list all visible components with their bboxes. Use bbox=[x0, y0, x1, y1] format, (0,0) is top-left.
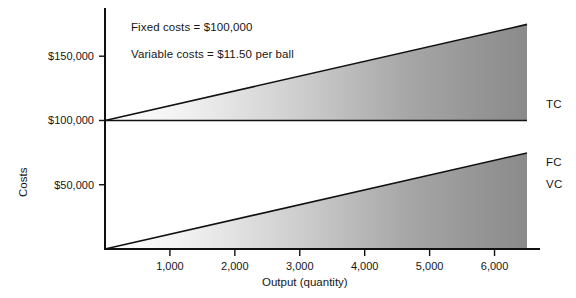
x-tick-label-1000: 1,000 bbox=[140, 261, 200, 272]
x-tick-label-4000: 4,000 bbox=[335, 261, 395, 272]
chart-canvas bbox=[0, 0, 576, 298]
x-tick-label-6000: 6,000 bbox=[465, 261, 525, 272]
series-label-fc: FC bbox=[546, 157, 562, 169]
cost-behavior-chart: Fixed costs = $100,000 Variable costs = … bbox=[0, 0, 576, 298]
y-tick-label-100000: $100,000 bbox=[32, 115, 94, 126]
annotation-variable-costs: Variable costs = $11.50 per ball bbox=[131, 49, 294, 61]
annotation-fixed-costs: Fixed costs = $100,000 bbox=[131, 22, 252, 34]
x-tick-label-5000: 5,000 bbox=[400, 261, 460, 272]
x-axis-title: Output (quantity) bbox=[262, 277, 348, 289]
x-tick-label-3000: 3,000 bbox=[270, 261, 330, 272]
y-axis-title: Costs bbox=[18, 168, 30, 197]
series-label-vc: VC bbox=[546, 179, 563, 191]
series-label-tc: TC bbox=[546, 99, 562, 111]
y-tick-label-150000: $150,000 bbox=[32, 51, 94, 62]
x-tick-label-2000: 2,000 bbox=[205, 261, 265, 272]
y-tick-label-50000: $50,000 bbox=[32, 180, 94, 191]
